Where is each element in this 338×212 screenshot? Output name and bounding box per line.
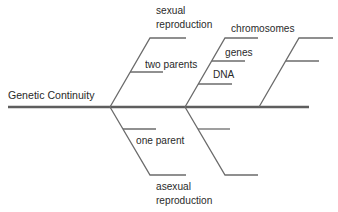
branch-1-upper: [110, 38, 186, 107]
branch-label-sexual-line1: sexual: [156, 4, 185, 17]
branch-label-asexual-line2: reproduction: [156, 194, 212, 207]
diagram-title: Genetic Continuity: [8, 89, 94, 102]
sub-item-one-parent: one parent: [136, 134, 184, 147]
branch-label-sexual-line2: reproduction: [156, 18, 212, 31]
sub-item-genes: genes: [225, 46, 253, 59]
branch-label-chromosomes: chromosomes: [231, 22, 295, 35]
branch-3-upper: [259, 38, 333, 107]
sub-item-two-parents: two parents: [145, 58, 197, 71]
sub-item-dna: DNA: [213, 68, 234, 81]
branch-2-lower: [185, 107, 258, 175]
branch-label-asexual-line1: asexual: [156, 180, 191, 193]
